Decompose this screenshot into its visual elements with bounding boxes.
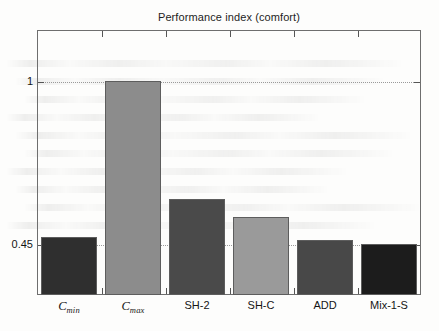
- figure-canvas: Performance index (comfort) 10.45 CminCm…: [0, 0, 439, 331]
- y-axis-tick-labels: 10.45: [0, 30, 33, 295]
- bar-series: [37, 30, 421, 295]
- x-axis-tick-labels: CminCmaxSH-2SH-CADDMix-1-S: [37, 299, 421, 323]
- bar-SH-2: [169, 199, 226, 295]
- bar-Mix-1-S: [361, 244, 418, 295]
- bar-C_max: [105, 81, 162, 295]
- bar-ADD: [297, 240, 354, 295]
- x-tick-label-C_min: Cmin: [58, 299, 80, 314]
- x-tick-label-C_max: Cmax: [121, 299, 144, 314]
- bar-C_min: [41, 237, 98, 295]
- x-tick-label-SH-2: SH-2: [184, 299, 209, 311]
- x-tick-label-SH-C: SH-C: [248, 299, 275, 311]
- y-tick-label-1: 1: [27, 75, 33, 87]
- bar-SH-C: [233, 217, 290, 295]
- x-tick-label-Mix-1-S: Mix-1-S: [370, 299, 408, 311]
- x-tick-label-ADD: ADD: [313, 299, 336, 311]
- y-tick-label-0.45: 0.45: [12, 238, 33, 250]
- chart-title: Performance index (comfort): [37, 11, 421, 23]
